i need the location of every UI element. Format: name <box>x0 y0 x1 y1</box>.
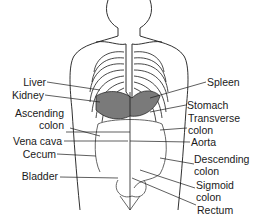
label-descending-colon-2: colon <box>194 166 219 177</box>
label-transverse-colon-2: colon <box>188 125 213 136</box>
label-rectum: Rectum <box>197 205 233 216</box>
label-vena-cava: Vena cava <box>8 136 62 147</box>
label-descending-colon-1: Descending <box>194 154 249 165</box>
label-cecum: Cecum <box>20 149 56 160</box>
label-ascending-colon-1: Ascending <box>12 108 64 119</box>
label-liver: Liver <box>22 77 46 88</box>
label-bladder: Bladder <box>16 171 58 182</box>
ascending-colon-shape <box>95 124 100 172</box>
label-stomach: Stomach <box>187 100 228 111</box>
anatomy-diagram: Liver Kidney Ascending colon Vena cava C… <box>0 0 256 219</box>
liver-stomach-shape <box>96 91 160 119</box>
label-sigmoid-colon-2: colon <box>196 192 221 203</box>
label-spleen: Spleen <box>207 77 240 88</box>
label-kidney: Kidney <box>8 90 44 101</box>
label-ascending-colon-2: colon <box>12 120 64 131</box>
neck-left <box>106 0 118 36</box>
label-sigmoid-colon-1: Sigmoid <box>196 180 234 191</box>
label-transverse-colon-1: Transverse <box>188 113 240 124</box>
label-aorta: Aorta <box>191 137 216 148</box>
